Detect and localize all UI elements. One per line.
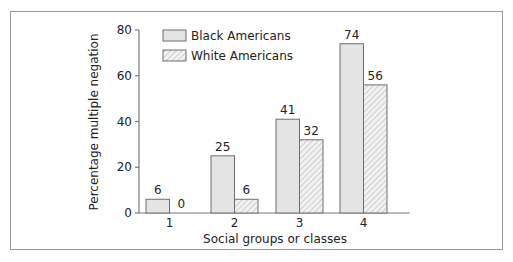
legend-label: White Americans [191,49,293,63]
data-label: 41 [280,103,295,117]
legend-swatch [163,50,186,61]
bar-black-americans [211,156,235,213]
bar-white-americans [300,140,324,213]
x-tick-label: 2 [231,216,239,230]
data-label: 25 [215,140,230,154]
x-tick-label: 3 [296,216,304,230]
y-tick-label: 80 [117,23,132,37]
data-label: 56 [368,69,383,83]
legend: Black AmericansWhite Americans [163,29,293,63]
y-axis: 020406080 [117,23,139,220]
data-label: 6 [242,183,250,197]
x-axis-label: Social groups or classes [203,232,347,246]
legend-swatch [163,30,186,41]
x-tick-label: 4 [360,216,368,230]
y-tick-label: 20 [117,160,132,174]
legend-label: Black Americans [191,29,291,43]
data-label: 32 [304,124,319,138]
bar-white-americans [364,85,388,213]
y-tick-label: 40 [117,115,132,129]
y-tick-label: 60 [117,69,132,83]
y-tick-label: 0 [124,206,132,220]
bar-chart: 020406080 1234 6025641327456 Black Ameri… [0,0,513,262]
bar-black-americans [276,119,300,213]
x-axis: 1234 [139,213,410,230]
y-axis-label: Percentage multiple negation [87,33,101,210]
bar-black-americans [146,199,170,213]
data-label: 0 [177,197,185,211]
data-label: 6 [154,183,162,197]
bar-white-americans [235,199,259,213]
x-tick-label: 1 [166,216,174,230]
data-label: 74 [344,28,359,42]
bar-black-americans [340,44,364,213]
